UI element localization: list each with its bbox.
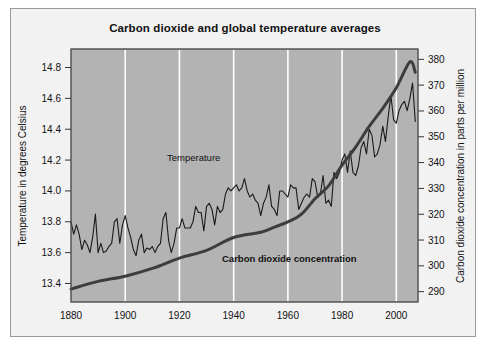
right-tick-label: 360 bbox=[428, 105, 445, 116]
right-tick-label: 380 bbox=[428, 54, 445, 65]
right-axis-title: Carbon dioxide concentration in parts pe… bbox=[455, 69, 466, 283]
chart-plot-area: 13.413.613.814.014.214.414.614.8 2903003… bbox=[0, 0, 490, 348]
left-axis-ticks: 13.413.613.814.014.214.414.614.8 bbox=[42, 62, 71, 289]
x-tick-label: 2000 bbox=[385, 310, 408, 321]
left-tick-label: 13.4 bbox=[42, 278, 62, 289]
co2-annotation-label: Carbon dioxide concentration bbox=[222, 253, 357, 264]
left-axis-title: Temperature in degrees Celsius bbox=[17, 105, 28, 246]
right-tick-label: 370 bbox=[428, 80, 445, 91]
x-tick-label: 1900 bbox=[114, 310, 137, 321]
right-tick-label: 340 bbox=[428, 157, 445, 168]
right-tick-label: 300 bbox=[428, 260, 445, 271]
left-tick-label: 14.4 bbox=[42, 124, 62, 135]
x-axis-ticks: 1880190019201940196019802000 bbox=[60, 310, 408, 321]
right-tick-label: 320 bbox=[428, 209, 445, 220]
chart-figure: Carbon dioxide and global temperature av… bbox=[0, 0, 490, 348]
right-tick-label: 290 bbox=[428, 286, 445, 297]
x-tick-label: 1940 bbox=[223, 310, 246, 321]
plot-background bbox=[71, 49, 418, 302]
left-tick-label: 14.0 bbox=[42, 185, 62, 196]
right-tick-label: 310 bbox=[428, 235, 445, 246]
left-tick-label: 13.6 bbox=[42, 247, 62, 258]
left-tick-label: 14.6 bbox=[42, 93, 62, 104]
right-tick-label: 350 bbox=[428, 131, 445, 142]
right-tick-label: 330 bbox=[428, 183, 445, 194]
x-tick-label: 1920 bbox=[168, 310, 191, 321]
x-tick-label: 1880 bbox=[60, 310, 83, 321]
left-tick-label: 14.2 bbox=[42, 155, 62, 166]
x-tick-label: 1960 bbox=[277, 310, 300, 321]
x-tick-label: 1980 bbox=[331, 310, 354, 321]
left-tick-label: 13.8 bbox=[42, 216, 62, 227]
right-axis-ticks: 290300310320330340350360370380 bbox=[418, 54, 445, 297]
left-tick-label: 14.8 bbox=[42, 62, 62, 73]
temperature-annotation-label: Temperature bbox=[167, 152, 220, 163]
